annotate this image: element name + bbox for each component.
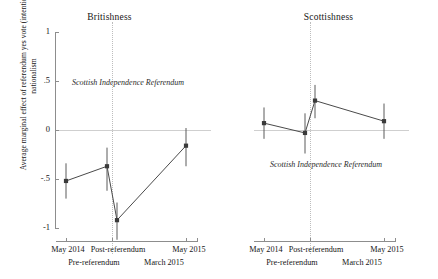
series-scottishness <box>0 0 438 279</box>
x-axis-tick <box>310 238 311 242</box>
x-axis-label-row1: May 2014 <box>249 245 282 254</box>
y-axis-tick <box>55 32 59 33</box>
x-axis-label-row1: May 2015 <box>370 245 403 254</box>
y-axis-tick-label: .5 <box>26 75 50 85</box>
y-axis-tick <box>55 179 59 180</box>
data-point-marker <box>382 119 386 123</box>
x-axis-tick <box>264 238 265 242</box>
x-axis-label-row2: March 2015 <box>342 258 382 267</box>
y-axis-tick-label: 1 <box>26 26 50 36</box>
x-axis-label-row2: Pre-referendum <box>266 258 317 267</box>
series-line <box>264 101 384 133</box>
data-point-marker <box>262 121 266 125</box>
data-point-marker <box>303 131 307 135</box>
x-axis-tick <box>395 238 396 242</box>
y-axis-tick <box>55 81 59 82</box>
y-axis-tick <box>55 228 59 229</box>
data-point-marker <box>313 99 317 103</box>
y-axis-tick-label: 0 <box>26 124 50 134</box>
x-axis-line <box>254 241 395 242</box>
referendum-annotation: Scottish Independence Referendum <box>270 160 382 169</box>
x-axis-tick <box>384 238 385 242</box>
x-axis-label-row1: Post-referendum <box>289 245 344 254</box>
y-axis-tick <box>55 130 59 131</box>
y-axis-tick-label: -.5 <box>26 173 50 183</box>
y-axis-tick-label: -1 <box>26 222 50 232</box>
chart-figure: Average marginal effect of referendum ye… <box>0 0 438 279</box>
